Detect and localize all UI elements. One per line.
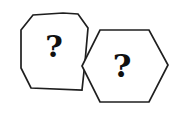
polygons-figure: ? ? — [0, 0, 185, 117]
right-hexagon-group: ? — [82, 30, 168, 102]
question-mark-glyph-right: ? — [113, 47, 132, 85]
left-octagon-group: ? — [21, 13, 88, 90]
figure-canvas: ? ? — [0, 0, 185, 117]
question-mark-glyph-left: ? — [45, 29, 63, 64]
